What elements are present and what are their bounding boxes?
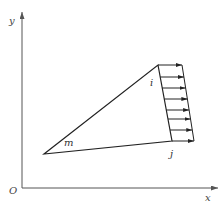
y-axis-label: y (8, 15, 15, 26)
vertex-m-label: m (64, 137, 73, 148)
vertex-i-label: i (150, 77, 153, 88)
triangle-element-diagram: y O x i j m (0, 0, 222, 204)
x-axis-label: x (205, 192, 211, 203)
coordinate-axes: y O x (8, 12, 218, 203)
distributed-load (158, 65, 194, 141)
vertex-j-label: j (168, 148, 173, 159)
origin-label: O (9, 185, 17, 196)
triangle-element: i j m (44, 65, 173, 159)
